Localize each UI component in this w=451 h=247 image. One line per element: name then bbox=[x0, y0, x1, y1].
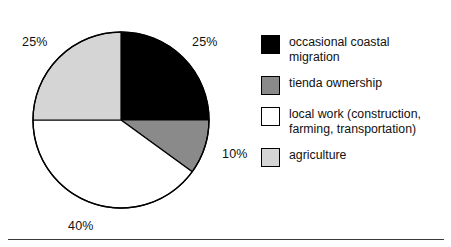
legend-item-local-work: local work (construction, farming, trans… bbox=[261, 106, 451, 136]
legend-item-agriculture: agriculture bbox=[261, 147, 451, 167]
footer-divider bbox=[8, 239, 444, 240]
pie-label-migration-percent: 25% bbox=[192, 36, 218, 49]
legend-label-local-work: local work (construction, farming, trans… bbox=[289, 106, 421, 136]
legend-item-tienda-ownership: tienda ownership bbox=[261, 75, 451, 95]
legend-label-line2: farming, transportation) bbox=[289, 122, 416, 136]
legend-item-occasional-coastal-migration: occasional coastal migration bbox=[261, 34, 451, 64]
legend-label-line1: occasional coastal bbox=[289, 35, 389, 49]
legend-swatch-black-icon bbox=[261, 35, 280, 54]
legend-label-line1: local work (construction, bbox=[289, 107, 421, 121]
legend-label-tienda-ownership: tienda ownership bbox=[289, 75, 382, 91]
legend-swatch-lightgray-icon bbox=[261, 148, 280, 167]
pie-chart-figure: 25% 25% 10% 40% occasional coastal migra… bbox=[0, 0, 451, 247]
legend-label-line1: agriculture bbox=[289, 148, 346, 162]
pie-chart-area: 25% 25% 10% 40% bbox=[0, 0, 250, 247]
pie-label-localwork-percent: 40% bbox=[68, 220, 94, 233]
chart-legend: occasional coastal migration tienda owne… bbox=[261, 34, 451, 178]
pie-slices-group bbox=[33, 32, 209, 208]
legend-label-agriculture: agriculture bbox=[289, 147, 346, 163]
legend-swatch-gray-icon bbox=[261, 76, 280, 95]
pie-label-tienda-percent: 10% bbox=[222, 148, 248, 161]
legend-label-occasional-coastal-migration: occasional coastal migration bbox=[289, 34, 389, 64]
legend-label-line1: tienda ownership bbox=[289, 76, 382, 90]
legend-label-line2: migration bbox=[289, 50, 340, 64]
legend-swatch-white-icon bbox=[261, 107, 280, 126]
pie-label-agriculture-percent: 25% bbox=[22, 36, 48, 49]
